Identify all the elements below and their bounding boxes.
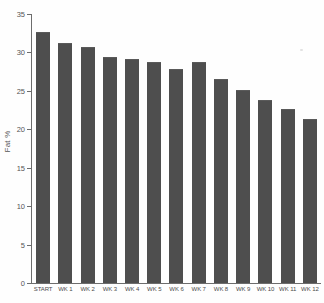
y-axis-tick-mark (27, 283, 31, 284)
bar[interactable] (147, 62, 161, 283)
y-axis-tick-label: 30 (0, 48, 25, 57)
y-axis-tick-mark (27, 91, 31, 92)
bar[interactable] (125, 59, 139, 283)
bar[interactable] (81, 47, 95, 283)
bar-slot (258, 14, 272, 283)
bar-slot (192, 14, 206, 283)
x-axis-tick-label: WK 8 (210, 286, 232, 292)
bar-slot (303, 14, 317, 283)
y-axis-tick-label: 10 (0, 202, 25, 211)
bar[interactable] (214, 79, 228, 283)
scan-artifact-speck (300, 49, 303, 51)
plot-area: STARTWK 1WK 2WK 3WK 4WK 5WK 6WK 7WK 8WK … (32, 14, 321, 283)
bar-slot (236, 14, 250, 283)
y-axis-tick-label: 35 (0, 10, 25, 19)
bar[interactable] (258, 100, 272, 283)
bar-slot (81, 14, 95, 283)
bar[interactable] (36, 32, 50, 283)
x-axis-tick-label: WK 2 (76, 286, 98, 292)
x-axis-tick-label: WK 5 (143, 286, 165, 292)
y-axis-title-text: Fat % (4, 131, 13, 153)
bar[interactable] (192, 62, 206, 283)
bar-slot (58, 14, 72, 283)
bar-slot (125, 14, 139, 283)
bar-slot (169, 14, 183, 283)
bar-slot (36, 14, 50, 283)
y-axis-tick-mark (27, 14, 31, 15)
x-axis-tick-label: WK 6 (165, 286, 187, 292)
y-axis-tick-label: 25 (0, 86, 25, 95)
y-axis-tick-label: 15 (0, 163, 25, 172)
x-axis-line (31, 283, 321, 284)
y-axis-tick-mark (27, 168, 31, 169)
x-axis-tick-label: WK 11 (277, 286, 299, 292)
bar-slot (147, 14, 161, 283)
y-axis-tick-mark (27, 129, 31, 130)
bar[interactable] (103, 57, 117, 283)
bar[interactable] (58, 43, 72, 283)
bar[interactable] (169, 69, 183, 283)
bar[interactable] (303, 119, 317, 283)
y-axis-tick-mark (27, 206, 31, 207)
bar[interactable] (281, 109, 295, 283)
bar-chart: Fat % 05101520253035 STARTWK 1WK 2WK 3WK… (0, 0, 324, 303)
x-axis-tick-label: WK 9 (232, 286, 254, 292)
x-axis-tick-label: START (32, 286, 54, 292)
x-axis-tick-label: WK 12 (299, 286, 321, 292)
x-axis-tick-label: WK 3 (99, 286, 121, 292)
y-axis-tick-label: 20 (0, 125, 25, 134)
x-axis-tick-label: WK 4 (121, 286, 143, 292)
y-axis-tick-label: 5 (0, 240, 25, 249)
y-axis-tick-label: 0 (0, 279, 25, 288)
x-axis-tick-label: WK 7 (188, 286, 210, 292)
bar-slot (214, 14, 228, 283)
x-axis-tick-label: WK 1 (54, 286, 76, 292)
bar-slot (103, 14, 117, 283)
y-axis-tick-mark (27, 52, 31, 53)
y-axis-tick-mark (27, 245, 31, 246)
bar-slot (281, 14, 295, 283)
bar[interactable] (236, 90, 250, 283)
x-axis-tick-label: WK 10 (254, 286, 276, 292)
